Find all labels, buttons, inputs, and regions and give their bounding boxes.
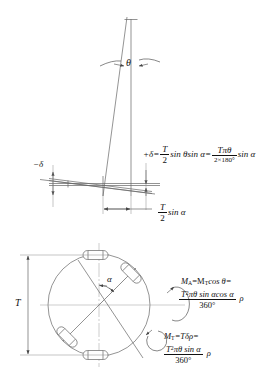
- half-t-sina-label: T2sin α: [157, 202, 186, 223]
- ma-rho: ρ: [240, 293, 244, 303]
- half-t-sina-dimension: [103, 196, 152, 214]
- deflection-formula: +δ=T2sin θsin α=Tπθ2×180°sin α: [143, 144, 255, 165]
- shaft-vertical-axis: [125, 19, 138, 180]
- ma-den: 360°: [179, 299, 236, 310]
- neg-delta-label: −δ: [33, 160, 43, 169]
- alpha-label: α: [107, 275, 112, 284]
- mt-den: 360°: [164, 354, 203, 365]
- deflection-formula-mid: sin θsin α=: [170, 149, 211, 159]
- mt-rho: ρ: [207, 348, 211, 358]
- drum-diameter-label: T: [15, 298, 21, 308]
- mt-tail: =Tδρ=: [175, 331, 199, 341]
- mt-frac: T2πθ sin α360°: [164, 344, 203, 365]
- ma-num-b: πθ sin αcos α: [189, 289, 234, 299]
- figure-canvas: θ −δ +δ=T2sin θsin α=Tπθ2×180°sin α T2si…: [0, 0, 278, 391]
- half-t-sina-tail: sin α: [168, 207, 185, 217]
- mt-num-b: πθ sin α: [174, 344, 201, 354]
- alpha-angle-marker: [99, 285, 114, 292]
- formula-mt-fraction: T2πθ sin α360°ρ: [163, 344, 211, 365]
- ma-tail: cos θ=: [208, 276, 231, 286]
- formula-mt: MT=Tδρ=: [164, 331, 199, 341]
- formula-ma: MA=MTcos θ=: [181, 276, 232, 286]
- deflection-formula-lhs: +δ=: [143, 149, 159, 159]
- deflection-frac-t2: T2: [160, 144, 169, 165]
- shaft-tilted-centerline: [103, 17, 127, 196]
- deflection-frac-tpitheta: Tπθ2×180°: [212, 145, 237, 164]
- theta-label: θ: [126, 58, 131, 68]
- formula-ma-fraction: T2πθ sin αcos α360°ρ: [178, 289, 244, 310]
- ma-eq: =M: [192, 276, 204, 286]
- ma-frac: T2πθ sin αcos α360°: [179, 289, 236, 310]
- deflection-plate-lines: [40, 176, 160, 196]
- half-t-frac: T2: [158, 202, 167, 223]
- deflection-formula-tail: sin α: [238, 149, 255, 159]
- diagram-vector-layer: [0, 0, 278, 391]
